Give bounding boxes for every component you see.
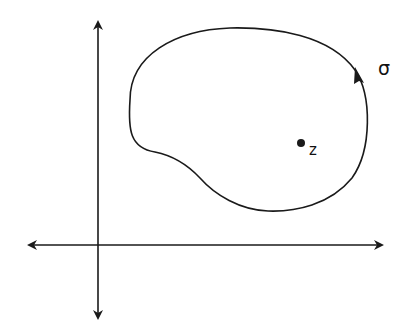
curve-label-sigma: σ	[378, 59, 390, 78]
direction-arrow-icon	[354, 67, 364, 84]
curve-sigma	[129, 28, 367, 211]
point-z	[297, 139, 305, 147]
diagram-svg	[0, 0, 407, 336]
point-label-z: z	[309, 143, 317, 158]
diagram-canvas: σ z	[0, 0, 407, 336]
